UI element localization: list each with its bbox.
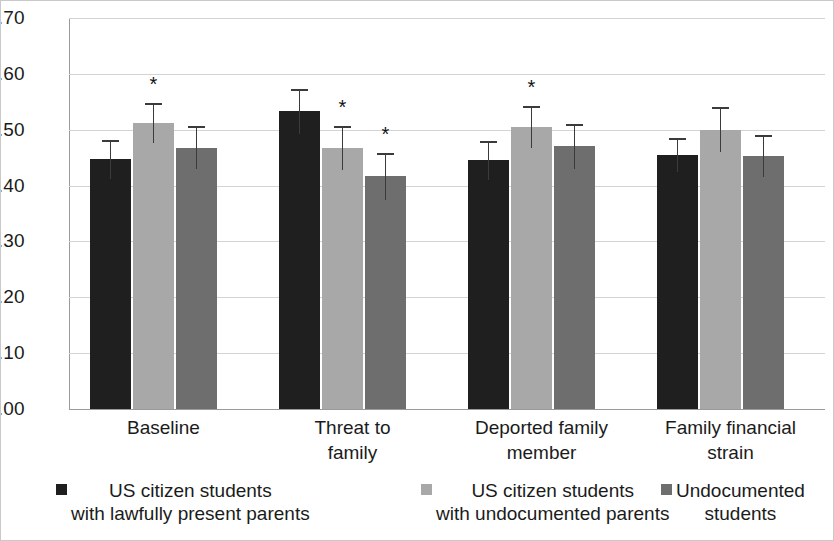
bar[interactable] <box>743 156 784 409</box>
bar-column[interactable]: * <box>365 18 406 409</box>
legend-label: US citizen students with undocumented pa… <box>436 479 669 525</box>
error-bar <box>488 141 489 180</box>
legend-item[interactable]: US citizen students with lawfully presen… <box>56 479 310 525</box>
bar[interactable] <box>554 146 595 409</box>
bar-group: ** <box>258 18 447 409</box>
error-bar-cap-upper <box>480 141 497 143</box>
bar[interactable] <box>176 148 217 409</box>
significance-asterisk: * <box>339 102 347 112</box>
legend-swatch-icon <box>421 484 432 495</box>
y-tick-label: 0.70 <box>0 7 51 29</box>
bar-column[interactable] <box>176 18 217 409</box>
error-bar <box>110 140 111 179</box>
error-bar-cap-upper <box>102 140 119 142</box>
bar[interactable] <box>468 160 509 409</box>
bar-column[interactable] <box>700 18 741 409</box>
error-bar <box>342 126 343 171</box>
y-tick-label: 0.10 <box>0 342 51 364</box>
error-bar <box>153 103 154 142</box>
x-axis-label: Baseline <box>69 415 258 440</box>
bar[interactable] <box>511 127 552 409</box>
bar[interactable] <box>365 176 406 409</box>
error-bar-cap-upper <box>755 135 772 137</box>
x-axis-label: Threat tofamily <box>258 415 447 465</box>
error-bar-cap-upper <box>334 126 351 128</box>
bar[interactable] <box>657 155 698 409</box>
significance-asterisk: * <box>528 82 536 92</box>
error-bar <box>299 89 300 134</box>
bar-column[interactable] <box>657 18 698 409</box>
bar-column[interactable]: * <box>511 18 552 409</box>
error-bar <box>677 138 678 172</box>
chart-legend: US citizen students with lawfully presen… <box>1 479 834 539</box>
y-tick-label: 0.60 <box>0 63 51 85</box>
bar[interactable] <box>133 123 174 409</box>
bar[interactable] <box>322 148 363 409</box>
bar-column[interactable] <box>554 18 595 409</box>
error-bar <box>531 106 532 148</box>
plot-area: **** <box>69 18 825 409</box>
significance-asterisk: * <box>150 79 158 89</box>
y-tick-label: 0.30 <box>0 230 51 252</box>
error-bar <box>196 126 197 168</box>
y-tick-label: 0.40 <box>0 175 51 197</box>
legend-swatch-icon <box>56 484 67 495</box>
legend-label: US citizen students with lawfully presen… <box>71 479 310 525</box>
legend-item[interactable]: Undocumented students <box>661 479 805 525</box>
error-bar-cap-upper <box>712 107 729 109</box>
legend-swatch-icon <box>661 484 672 495</box>
error-bar-cap-upper <box>377 153 394 155</box>
legend-item[interactable]: US citizen students with undocumented pa… <box>421 479 669 525</box>
bar-chart-figure: **** 0.700.600.500.400.300.200.100.00 Ba… <box>0 0 834 541</box>
bar[interactable] <box>700 130 741 409</box>
y-tick-label: 0.00 <box>0 398 51 420</box>
bar-column[interactable] <box>279 18 320 409</box>
y-tick-label: 0.50 <box>0 119 51 141</box>
x-axis-category-labels: BaselineThreat tofamilyDeported familyme… <box>69 415 825 475</box>
error-bar <box>763 135 764 177</box>
bar-column[interactable]: * <box>133 18 174 409</box>
bar[interactable] <box>90 159 131 409</box>
x-axis-label: Deported familymember <box>447 415 636 465</box>
bar-column[interactable] <box>90 18 131 409</box>
bar-group: * <box>69 18 258 409</box>
error-bar-cap-upper <box>145 103 162 105</box>
error-bar <box>574 124 575 169</box>
bar[interactable] <box>279 111 320 409</box>
error-bar-cap-upper <box>566 124 583 126</box>
error-bar <box>720 107 721 152</box>
error-bar <box>385 153 386 200</box>
significance-asterisk: * <box>382 129 390 139</box>
error-bar-cap-upper <box>188 126 205 128</box>
error-bar-cap-upper <box>291 89 308 91</box>
bar-column[interactable]: * <box>322 18 363 409</box>
bar-column[interactable] <box>468 18 509 409</box>
bar-group <box>636 18 825 409</box>
error-bar-cap-upper <box>523 106 540 108</box>
bar-group: * <box>447 18 636 409</box>
x-axis-label: Family financialstrain <box>636 415 825 465</box>
gridline-0.00 <box>69 409 825 410</box>
y-tick-label: 0.20 <box>0 286 51 308</box>
legend-label: Undocumented students <box>676 479 805 525</box>
error-bar-cap-upper <box>669 138 686 140</box>
bar-column[interactable] <box>743 18 784 409</box>
